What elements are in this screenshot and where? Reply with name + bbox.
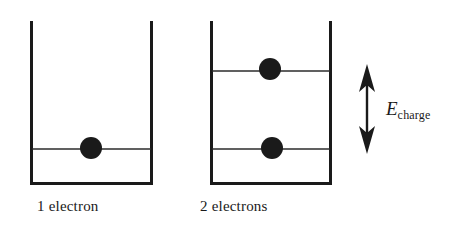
electron-dot (261, 137, 283, 159)
energy-subscript: charge (398, 108, 431, 122)
charging-energy-arrow (359, 64, 375, 154)
energy-symbol: E (386, 98, 398, 119)
electron-dot (80, 137, 102, 159)
well-two-electrons (210, 21, 332, 185)
energy-level-diagram: Echarge 1 electron 2 electrons (0, 0, 471, 235)
charging-energy-label: Echarge (386, 98, 431, 123)
well-one-electron (30, 21, 153, 185)
caption-two-electrons: 2 electrons (200, 198, 268, 215)
caption-one-electron: 1 electron (37, 198, 99, 215)
electron-dot (259, 58, 281, 80)
